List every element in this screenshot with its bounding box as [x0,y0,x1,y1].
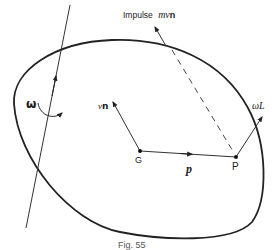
impulse-word: Impulse [123,10,153,20]
p-vector-label: p [186,163,192,175]
impulse-dashed-line [172,50,234,153]
impulse-mv: mv [158,9,170,20]
p-point-label: P [232,162,239,172]
vn-n: n [102,101,108,111]
omega-l-arrow [236,117,262,157]
axis-arrow-icon [52,76,56,96]
point-p [234,155,238,159]
omega-label: ω [26,98,36,110]
rotation-axis [26,5,70,228]
impulse-label: Impulse mvn [123,10,175,20]
omega-l-label: ωL [252,101,265,111]
point-g [138,149,142,153]
g-label: G [135,156,142,165]
impulse-n: n [170,10,176,20]
figure-caption: Fig. 55 [118,241,146,250]
vn-label: vn [98,102,108,111]
vn-arrow [113,102,140,151]
position-vector-arrow-icon [180,154,192,155]
